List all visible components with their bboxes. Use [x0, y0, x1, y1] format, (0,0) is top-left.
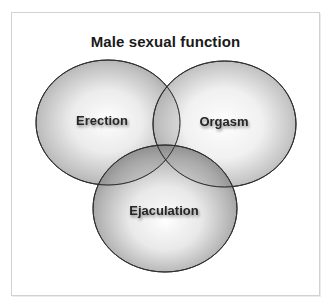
venn-diagram: Erection Orgasm Ejaculation — [0, 0, 331, 308]
label-erection: Erection — [76, 113, 128, 128]
label-ejaculation: Ejaculation — [129, 203, 198, 218]
label-orgasm: Orgasm — [199, 114, 248, 129]
